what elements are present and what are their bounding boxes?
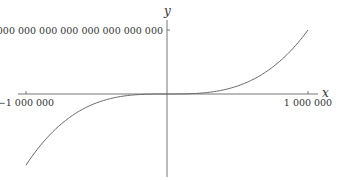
chart: −1 000 0001 000 000900 000 000 000 000 0… xyxy=(0,0,340,180)
x-axis-label: x xyxy=(322,86,329,100)
x-tick-label: −1 000 000 xyxy=(0,97,54,108)
y-tick-label: 900 000 000 000 000 000 000 000 000 000 xyxy=(0,25,163,36)
y-axis-label: y xyxy=(163,4,171,18)
